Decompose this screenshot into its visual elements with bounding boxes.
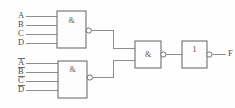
top-nand-gate[interactable]: & — [57, 11, 91, 48]
middle-nand-output-bubble — [161, 52, 166, 57]
bottom-nand-output-bubble — [87, 75, 92, 80]
top-nand-symbol: & — [68, 16, 75, 25]
middle-nand-gate[interactable]: & — [135, 41, 166, 68]
interconnect-wires — [92, 31, 136, 78]
label-input-d: D — [18, 37, 24, 47]
label-input-d-bar: D — [18, 84, 24, 94]
bottom-nand-symbol: & — [69, 65, 76, 74]
wire-top-nand-to-mid — [92, 31, 136, 49]
top-input-labels: A B C D — [18, 10, 25, 47]
output-buffer-symbol: 1 — [192, 44, 197, 54]
middle-nand-symbol: & — [145, 50, 152, 59]
top-input-wires — [26, 17, 57, 44]
circuit-canvas: & & & 1 — [0, 0, 235, 108]
bottom-input-wires — [26, 64, 58, 91]
output-buffer-bubble — [207, 52, 212, 57]
top-nand-output-bubble — [86, 28, 91, 33]
logic-circuit-diagram: & & & 1 — [0, 0, 235, 108]
output-buffer-gate[interactable]: 1 — [182, 41, 212, 68]
bottom-input-labels: A B C D — [18, 57, 26, 94]
label-output-f: F — [228, 48, 233, 58]
bottom-nand-gate[interactable]: & — [58, 61, 92, 98]
wire-bottom-nand-to-mid — [93, 61, 136, 78]
